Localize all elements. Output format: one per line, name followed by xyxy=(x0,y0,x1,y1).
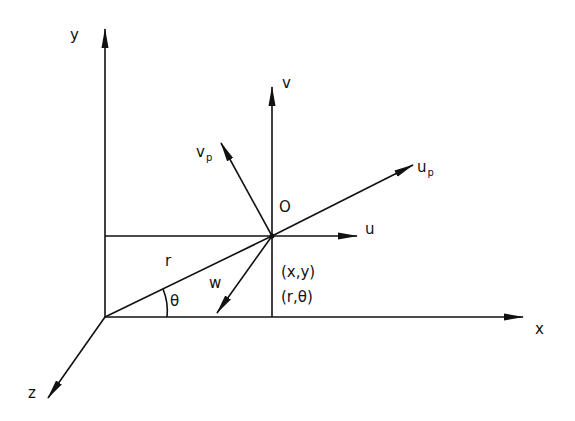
point-O xyxy=(270,234,275,239)
v-p-vector xyxy=(221,143,272,236)
coordinate-diagram: y x z O v u up vp w r θ (x,y) (r,θ) xyxy=(0,0,575,421)
x-axis-label: x xyxy=(535,322,544,337)
v-label: v xyxy=(282,76,291,91)
theta-label: θ xyxy=(170,294,179,309)
u-p-label-base: u xyxy=(417,158,427,176)
radius-line xyxy=(105,236,272,317)
u-p-vector xyxy=(272,165,413,236)
v-p-label-base: v xyxy=(196,143,205,161)
u-p-label-sub: p xyxy=(428,167,434,178)
cartesian-coords-label: (x,y) xyxy=(281,265,315,280)
polar-coords-label: (r,θ) xyxy=(281,290,313,305)
v-p-label-sub: p xyxy=(206,152,212,163)
z-axis xyxy=(48,317,105,398)
u-p-label: up xyxy=(417,160,434,175)
u-label: u xyxy=(365,222,375,237)
y-axis-label: y xyxy=(70,28,79,43)
z-axis-label: z xyxy=(28,386,36,401)
v-p-label: vp xyxy=(196,145,212,160)
w-vector xyxy=(217,236,272,313)
origin-label: O xyxy=(279,200,291,215)
w-label: w xyxy=(209,276,221,291)
r-label: r xyxy=(165,254,171,269)
theta-arc xyxy=(163,289,167,317)
